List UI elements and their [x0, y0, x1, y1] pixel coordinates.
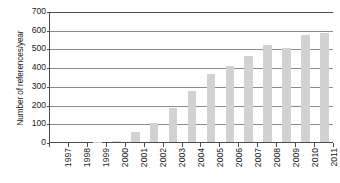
x-axis-tick-label: 2005 — [215, 148, 226, 182]
x-axis-tick-label: 1999 — [101, 148, 112, 182]
x-axis-tick-label: 1997 — [63, 148, 74, 182]
y-axis-tick-label: 200 — [20, 101, 46, 110]
bar — [282, 48, 291, 142]
x-axis-tick-label: 2008 — [272, 148, 283, 182]
y-axis-tick-label: 300 — [20, 82, 46, 91]
x-axis-tick — [257, 143, 258, 147]
y-axis-tick-label: 700 — [20, 7, 46, 16]
x-axis-tick-label: 2006 — [234, 148, 245, 182]
x-axis-tick-label: 2002 — [158, 148, 169, 182]
x-axis-tick-label: 1998 — [82, 148, 93, 182]
bar — [226, 66, 235, 142]
x-axis-tick — [333, 143, 334, 147]
plot-area — [49, 12, 333, 143]
y-axis-tick-label: 400 — [20, 63, 46, 72]
y-axis-tick-label: 500 — [20, 44, 46, 53]
x-axis-tick — [125, 143, 126, 147]
x-axis-tick — [144, 143, 145, 147]
bar — [188, 91, 197, 142]
x-axis-tick-labels: 1997199819992000200120022003200420052006… — [49, 148, 333, 183]
x-axis-tick-label: 2010 — [310, 148, 321, 182]
bar-series — [50, 12, 333, 142]
x-axis-tick — [314, 143, 315, 147]
x-axis-tick — [49, 143, 50, 147]
x-axis-tick — [68, 143, 69, 147]
x-axis-tick — [200, 143, 201, 147]
x-axis-tick-label: 2000 — [120, 148, 131, 182]
bar — [263, 45, 272, 142]
y-axis-tick-labels: 0100200300400500600700 — [20, 0, 46, 183]
bar — [150, 123, 159, 142]
bar — [131, 132, 140, 142]
x-axis-tick — [182, 143, 183, 147]
x-axis-tick — [295, 143, 296, 147]
bar — [112, 141, 121, 142]
x-axis-tick-label: 2001 — [139, 148, 150, 182]
x-axis-tick — [219, 143, 220, 147]
y-axis-tick-label: 600 — [20, 26, 46, 35]
y-axis-tick-label: 100 — [20, 119, 46, 128]
bar — [244, 56, 253, 142]
bar — [207, 74, 216, 142]
x-axis-tick — [106, 143, 107, 147]
y-axis-tick-label: 0 — [20, 138, 46, 147]
x-axis-tick-label: 2007 — [253, 148, 264, 182]
x-axis-tick-label: 2004 — [196, 148, 207, 182]
x-axis-tick-label: 2003 — [177, 148, 188, 182]
x-axis-tick — [163, 143, 164, 147]
bar — [320, 33, 329, 142]
x-axis-tick-label: 2011 — [329, 148, 340, 182]
bar — [169, 108, 178, 142]
x-axis-tick-label: 2009 — [291, 148, 302, 182]
bar — [301, 35, 310, 142]
x-axis-tick — [276, 143, 277, 147]
x-axis-tick — [238, 143, 239, 147]
x-axis-tick — [87, 143, 88, 147]
